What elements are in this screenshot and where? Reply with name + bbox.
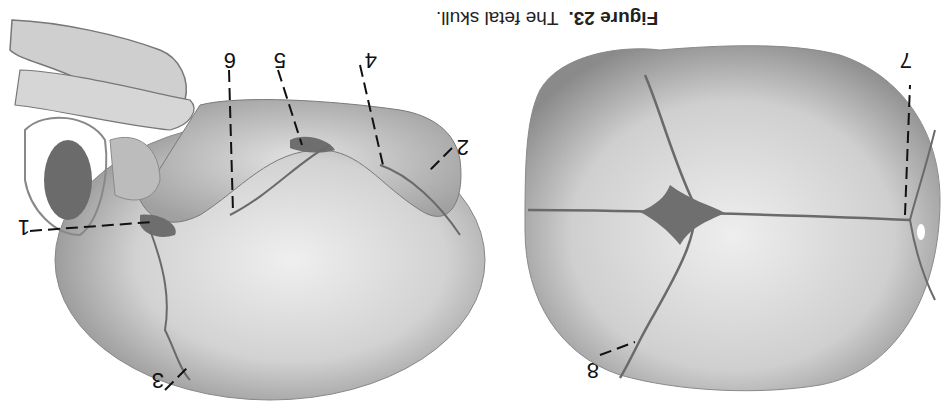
label-2: 2 [457,135,469,160]
figure-illustration: 1 2 3 4 5 6 7 8 [0,0,944,418]
figure-page: Figure 23.The fetal skull. [0,0,944,418]
superior-skull-view [525,46,940,391]
label-1: 1 [18,215,30,240]
label-4: 4 [365,48,377,73]
label-3: 3 [152,368,164,393]
lateral-skull-view [10,20,485,400]
label-5: 5 [274,48,286,73]
label-7: 7 [900,48,912,73]
label-6: 6 [224,48,236,73]
